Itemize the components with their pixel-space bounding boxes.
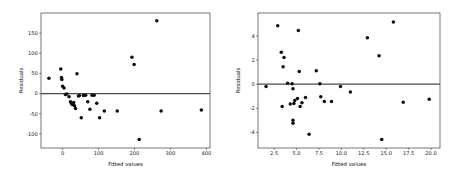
scatter-plot-right: 2.55.07.510.012.515.017.520.0-4-2024Fitt… — [227, 0, 454, 178]
x-tick-label: 2.5 — [270, 150, 278, 156]
scatter-plot-left: 0100200300400-100-50050100150Fitted valu… — [0, 0, 227, 178]
residual-plot-panel-right: 2.55.07.510.012.515.017.520.0-4-2024Fitt… — [227, 0, 454, 178]
y-tick-label: 150 — [28, 30, 38, 36]
data-point — [130, 56, 134, 60]
x-tick-label: 5.0 — [292, 150, 300, 156]
x-axis-title: Fitted values — [332, 161, 367, 167]
data-point — [339, 85, 343, 89]
y-tick-label: 0 — [35, 90, 38, 96]
x-tick-label: 200 — [130, 150, 140, 156]
data-point — [86, 100, 90, 104]
x-tick-label: 7.5 — [315, 150, 323, 156]
data-point — [92, 93, 96, 97]
data-point — [200, 108, 204, 112]
y-tick-label: -2 — [250, 105, 255, 111]
data-point — [401, 100, 405, 104]
data-point — [380, 138, 384, 142]
data-point — [72, 101, 76, 105]
data-point — [280, 105, 284, 109]
y-tick-label: 100 — [28, 50, 38, 56]
data-point — [159, 109, 163, 113]
data-point — [289, 102, 293, 106]
data-point — [59, 67, 63, 71]
data-point — [281, 65, 285, 69]
data-point — [298, 105, 302, 109]
y-axis-title: Residuals — [235, 68, 241, 94]
data-point — [291, 122, 295, 126]
data-point — [78, 94, 82, 98]
data-point — [292, 102, 296, 106]
data-point — [80, 116, 84, 120]
x-tick-label: 15.0 — [381, 150, 392, 156]
data-point — [280, 50, 284, 54]
data-point — [349, 90, 353, 94]
y-tick-label: 50 — [31, 70, 37, 76]
data-point — [297, 70, 301, 74]
data-point — [67, 95, 71, 99]
y-tick-label: -50 — [29, 111, 37, 117]
y-tick-label: 4 — [252, 33, 255, 39]
x-tick-label: 300 — [166, 150, 176, 156]
x-tick-label: 12.5 — [358, 150, 369, 156]
x-tick-label: 0 — [61, 150, 64, 156]
x-tick-label: 10.0 — [336, 150, 347, 156]
x-tick-label: 17.5 — [403, 150, 414, 156]
data-point — [307, 132, 311, 136]
data-point — [377, 54, 381, 58]
data-point — [84, 93, 88, 97]
y-axis-title: Residuals — [18, 68, 24, 94]
data-point — [291, 119, 295, 123]
data-point — [304, 96, 308, 100]
data-point — [315, 69, 319, 73]
data-point — [88, 108, 92, 112]
data-point — [137, 138, 141, 142]
data-point — [276, 24, 280, 28]
data-point — [291, 87, 295, 91]
data-point — [427, 97, 431, 101]
data-point — [47, 77, 51, 81]
data-point — [319, 95, 323, 99]
data-point — [297, 29, 301, 32]
data-point — [155, 19, 159, 23]
data-point — [115, 109, 119, 113]
data-point — [392, 20, 396, 24]
data-point — [103, 109, 107, 113]
data-point — [95, 102, 99, 106]
data-point — [98, 116, 102, 120]
x-tick-label: 400 — [202, 150, 212, 156]
data-point — [65, 92, 69, 96]
plot-frame — [41, 13, 210, 148]
data-point — [75, 72, 79, 76]
data-point — [62, 86, 66, 90]
data-point — [60, 78, 64, 82]
data-point — [132, 63, 136, 67]
x-tick-label: 100 — [94, 150, 104, 156]
data-point — [74, 107, 78, 111]
data-point — [290, 82, 294, 86]
y-tick-label: 0 — [252, 81, 255, 87]
x-axis-title: Fitted values — [108, 161, 143, 167]
data-point — [323, 100, 327, 104]
plot-frame — [258, 13, 440, 148]
x-tick-label: 20.0 — [425, 150, 436, 156]
y-tick-label: -100 — [26, 131, 38, 137]
data-point — [330, 100, 334, 104]
data-point — [300, 101, 304, 105]
data-point — [282, 56, 286, 60]
data-point — [318, 82, 322, 86]
residual-plot-panel-left: 0100200300400-100-50050100150Fitted valu… — [0, 0, 227, 178]
y-tick-label: 2 — [252, 57, 255, 63]
data-point — [264, 85, 268, 89]
data-point — [366, 36, 370, 40]
y-tick-label: -4 — [250, 129, 255, 135]
data-point — [286, 81, 290, 85]
residual-plots-figure: 0100200300400-100-50050100150Fitted valu… — [0, 0, 454, 178]
data-point — [296, 97, 300, 101]
